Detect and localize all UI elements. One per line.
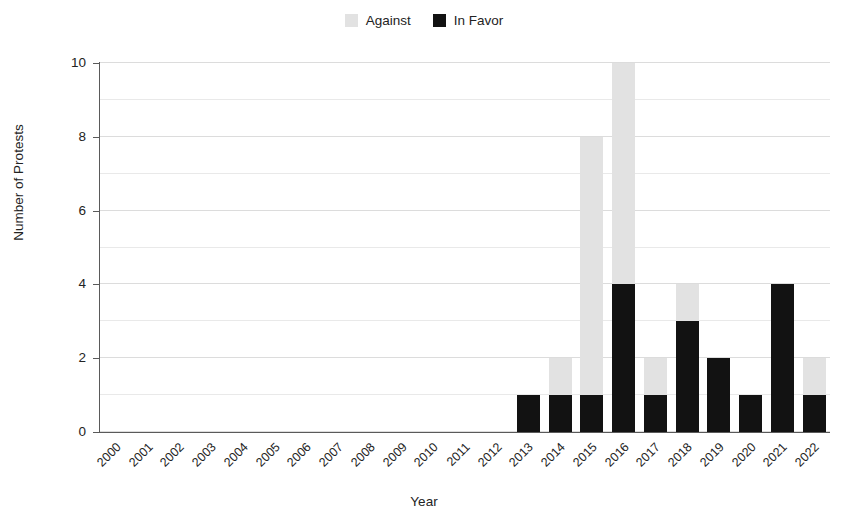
bar-group-2004[interactable] — [231, 63, 254, 432]
y-tick-mark — [93, 63, 100, 64]
bar-segment-against[interactable] — [644, 358, 667, 395]
bar-segment-against[interactable] — [803, 358, 826, 395]
x-tick-label-2013: 2013 — [498, 440, 536, 478]
bar-group-2015[interactable] — [580, 63, 603, 432]
x-tick-label-2011: 2011 — [435, 440, 473, 478]
legend-swatch-in-favor-icon — [433, 14, 446, 27]
y-tick-mark — [93, 358, 100, 359]
bar-segment-in-favor[interactable] — [771, 284, 794, 432]
bar-segment-in-favor[interactable] — [612, 284, 635, 432]
bar-segment-in-favor[interactable] — [517, 395, 540, 432]
x-tick-label-2015: 2015 — [562, 440, 600, 478]
bar-group-2022[interactable] — [803, 63, 826, 432]
bar-segment-against[interactable] — [549, 358, 572, 395]
x-tick-label-2022: 2022 — [784, 440, 822, 478]
legend-item-against[interactable]: Against — [345, 14, 411, 27]
y-axis-title: Number of Protests — [11, 83, 26, 283]
x-tick-label-2008: 2008 — [339, 440, 377, 478]
bar-group-2003[interactable] — [200, 63, 223, 432]
legend-label-against: Against — [366, 14, 411, 27]
bar-group-2006[interactable] — [295, 63, 318, 432]
x-tick-label-2003: 2003 — [181, 440, 219, 478]
bar-segment-against[interactable] — [676, 284, 699, 321]
x-axis-tick-labels: 2000200120022003200420052006200720082009… — [100, 432, 830, 502]
y-tick-label: 10 — [46, 55, 86, 70]
y-tick-label: 6 — [46, 203, 86, 218]
x-tick-label-2014: 2014 — [530, 440, 568, 478]
x-tick-label-2000: 2000 — [86, 440, 124, 478]
x-tick-label-2007: 2007 — [308, 440, 346, 478]
y-tick-label: 4 — [46, 276, 86, 291]
x-tick-label-2017: 2017 — [625, 440, 663, 478]
bar-group-2011[interactable] — [454, 63, 477, 432]
x-tick-label-2018: 2018 — [657, 440, 695, 478]
bar-segment-in-favor[interactable] — [739, 395, 762, 432]
stacked-bar-chart: Against In Favor 0246810 200020012002200… — [0, 0, 848, 530]
bar-segment-in-favor[interactable] — [707, 358, 730, 432]
bar-group-2010[interactable] — [422, 63, 445, 432]
y-tick-label: 8 — [46, 129, 86, 144]
x-tick-label-2006: 2006 — [276, 440, 314, 478]
bar-series-container — [100, 63, 830, 432]
x-tick-label-2019: 2019 — [689, 440, 727, 478]
x-tick-label-2010: 2010 — [403, 440, 441, 478]
bar-group-2016[interactable] — [612, 63, 635, 432]
x-tick-label-2005: 2005 — [244, 440, 282, 478]
bar-group-2012[interactable] — [485, 63, 508, 432]
bar-segment-in-favor[interactable] — [644, 395, 667, 432]
bar-segment-against[interactable] — [580, 137, 603, 395]
x-tick-label-2004: 2004 — [213, 440, 251, 478]
x-tick-label-2009: 2009 — [371, 440, 409, 478]
y-tick-mark — [93, 432, 100, 433]
bar-group-2020[interactable] — [739, 63, 762, 432]
bar-group-2008[interactable] — [358, 63, 381, 432]
bar-group-2018[interactable] — [676, 63, 699, 432]
y-tick-mark — [93, 284, 100, 285]
plot-area — [100, 63, 830, 432]
y-tick-mark — [93, 137, 100, 138]
bar-group-2009[interactable] — [390, 63, 413, 432]
y-tick-mark — [93, 211, 100, 212]
bar-group-2019[interactable] — [707, 63, 730, 432]
x-tick-label-2012: 2012 — [466, 440, 504, 478]
x-tick-label-2020: 2020 — [720, 440, 758, 478]
bar-group-2017[interactable] — [644, 63, 667, 432]
legend-label-in-favor: In Favor — [454, 14, 504, 27]
x-tick-label-2021: 2021 — [752, 440, 790, 478]
bar-group-2005[interactable] — [263, 63, 286, 432]
bar-group-2007[interactable] — [327, 63, 350, 432]
legend-swatch-against-icon — [345, 14, 358, 27]
bar-group-2001[interactable] — [136, 63, 159, 432]
bar-segment-against[interactable] — [612, 63, 635, 284]
bar-group-2014[interactable] — [549, 63, 572, 432]
y-tick-label: 0 — [46, 424, 86, 439]
y-tick-label: 2 — [46, 350, 86, 365]
bar-group-2021[interactable] — [771, 63, 794, 432]
x-tick-label-2002: 2002 — [149, 440, 187, 478]
legend-item-in-favor[interactable]: In Favor — [433, 14, 504, 27]
x-tick-label-2001: 2001 — [117, 440, 155, 478]
x-tick-label-2016: 2016 — [593, 440, 631, 478]
chart-legend: Against In Favor — [0, 14, 848, 27]
bar-segment-in-favor[interactable] — [549, 395, 572, 432]
bar-group-2002[interactable] — [168, 63, 191, 432]
bar-segment-in-favor[interactable] — [676, 321, 699, 432]
bar-segment-in-favor[interactable] — [580, 395, 603, 432]
bar-segment-in-favor[interactable] — [803, 395, 826, 432]
bar-group-2013[interactable] — [517, 63, 540, 432]
bar-group-2000[interactable] — [104, 63, 127, 432]
x-axis-title: Year — [0, 494, 848, 509]
